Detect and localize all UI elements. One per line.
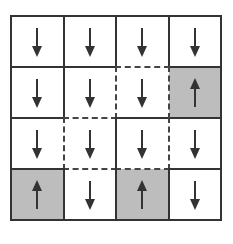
grid-cell: [64, 67, 117, 118]
arrow-down-icon: [188, 129, 202, 159]
grid-line: [115, 168, 170, 170]
grid-line: [168, 219, 223, 221]
arrow-up-icon: [30, 180, 44, 210]
arrow-down-icon: [135, 27, 149, 57]
grid-line: [10, 15, 65, 17]
grid-line: [220, 117, 222, 170]
grid-line: [10, 168, 12, 221]
grid-line: [115, 66, 117, 119]
grid-line: [115, 15, 117, 68]
grid-line: [10, 117, 12, 170]
grid-line: [220, 66, 222, 119]
grid-line: [10, 66, 65, 68]
grid-cell: [64, 169, 117, 220]
grid-line: [10, 15, 12, 68]
grid-cell: [116, 118, 169, 169]
grid-line: [168, 15, 170, 68]
grid-line: [63, 15, 118, 17]
grid-cell: [169, 16, 222, 67]
grid-line: [115, 168, 117, 221]
grid-line: [115, 219, 170, 221]
grid-cell: [64, 118, 117, 169]
grid-cell: [11, 67, 64, 118]
grid-cell: [11, 16, 64, 67]
grid-line: [168, 117, 223, 119]
grid-line: [63, 168, 118, 170]
arrow-down-icon: [83, 78, 97, 108]
arrow-up-icon: [188, 78, 202, 108]
grid-line: [63, 219, 118, 221]
grid-cell: [116, 67, 169, 118]
grid-line: [63, 66, 118, 68]
grid-line: [10, 168, 65, 170]
arrow-down-icon: [30, 78, 44, 108]
spin-grid-diagram: [11, 16, 221, 220]
grid-cell: [169, 118, 222, 169]
grid-line: [63, 66, 65, 119]
grid-line: [168, 117, 170, 170]
arrow-down-icon: [83, 180, 97, 210]
grid-line: [115, 66, 170, 68]
arrow-down-icon: [83, 129, 97, 159]
arrow-down-icon: [83, 27, 97, 57]
grid-line: [220, 15, 222, 68]
grid-cell: [11, 169, 64, 220]
grid-line: [63, 15, 65, 68]
arrow-down-icon: [188, 27, 202, 57]
arrow-down-icon: [135, 129, 149, 159]
grid-line: [168, 66, 223, 68]
grid-line: [63, 117, 118, 119]
grid-cell: [11, 118, 64, 169]
grid-cell: [169, 67, 222, 118]
grid-cell: [116, 169, 169, 220]
arrow-up-icon: [135, 180, 149, 210]
arrow-down-icon: [188, 180, 202, 210]
grid-line: [10, 66, 12, 119]
grid-line: [10, 117, 65, 119]
arrow-down-icon: [135, 78, 149, 108]
grid-line: [168, 66, 170, 119]
grid-cell: [169, 169, 222, 220]
grid-line: [115, 117, 117, 170]
grid-line: [63, 117, 65, 170]
grid-line: [220, 168, 222, 221]
grid-line: [168, 168, 223, 170]
arrow-down-icon: [30, 27, 44, 57]
grid-line: [10, 219, 65, 221]
grid-cell: [64, 16, 117, 67]
grid-line: [115, 117, 170, 119]
grid-line: [63, 168, 65, 221]
arrow-down-icon: [30, 129, 44, 159]
grid-line: [115, 15, 170, 17]
grid-cell: [116, 16, 169, 67]
grid-line: [168, 168, 170, 221]
grid-line: [168, 15, 223, 17]
